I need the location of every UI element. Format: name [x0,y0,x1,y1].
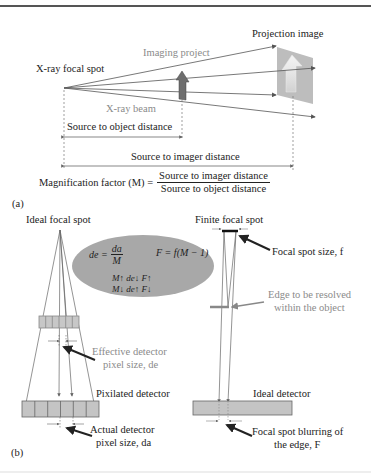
focal-spot-label: X-ray focal spot [36,63,104,74]
effective-pixel-label-line2: pixel size, de [103,359,158,370]
pixilated-detector [22,401,99,417]
projection-image-plane [277,47,313,104]
blur-label-line1: Focal spot blurring of [252,426,343,437]
magnification-numerator: Source to imager distance [157,170,270,183]
edge-label-line1: Edge to be resolved [268,289,351,300]
effective-pixel-label-line1: Effective detector [92,346,167,357]
finite-focal-spot-rays [219,231,236,402]
blur-pointer [227,425,252,436]
imaging-object-label: Imaging project [143,47,210,58]
actual-pixel-pointer [67,428,92,436]
ideal-detector-label: Ideal detector [253,388,310,399]
edge-label-line2: within the object [274,302,345,313]
de-formula-numerator: da [111,243,123,255]
source-imager-distance-label: Source to imager distance [131,151,240,162]
source-object-distance-label: Source to object distance [67,121,172,132]
F-formula: F = f(M − 1) [156,247,208,258]
de-formula: de = da M [89,243,123,266]
magnification-formula: Magnification factor (M) = Source to ima… [39,170,270,195]
edge-pointer [232,302,264,307]
relation-row-2: M↓ de↑ F↓ [112,284,152,294]
x-ray-beam-label: X-ray beam [106,103,156,114]
pixilated-detector-label: Pixilated detector [96,388,170,399]
panel-b-label: (b) [11,447,23,458]
magnification-denominator: Source to object distance [159,183,268,195]
ideal-focal-spot-title: Ideal focal spot [26,214,91,225]
actual-pixel-label-line2: pixel size, da [96,437,151,448]
focal-spot-size-pointer [240,236,270,250]
relation-row-1: M↑ de↓ F↑ [112,273,152,283]
effective-pixel-row [39,316,79,328]
de-formula-denominator: M [112,255,122,266]
de-formula-lhs: de = [89,249,108,260]
panel-a-label: (a) [12,198,24,209]
finite-focal-spot-title: Finite focal spot [195,214,263,225]
imaging-object-arrow [176,71,189,100]
focal-spot-size-label: Focal spot size, f [272,246,343,257]
projection-image-label: Projection image [252,28,323,39]
magnification-lhs: Magnification factor (M) = [39,177,153,188]
blur-label-line2: the edge, F [274,439,320,450]
ideal-detector [193,401,292,415]
actual-pixel-label-line1: Actual detector [90,424,154,435]
